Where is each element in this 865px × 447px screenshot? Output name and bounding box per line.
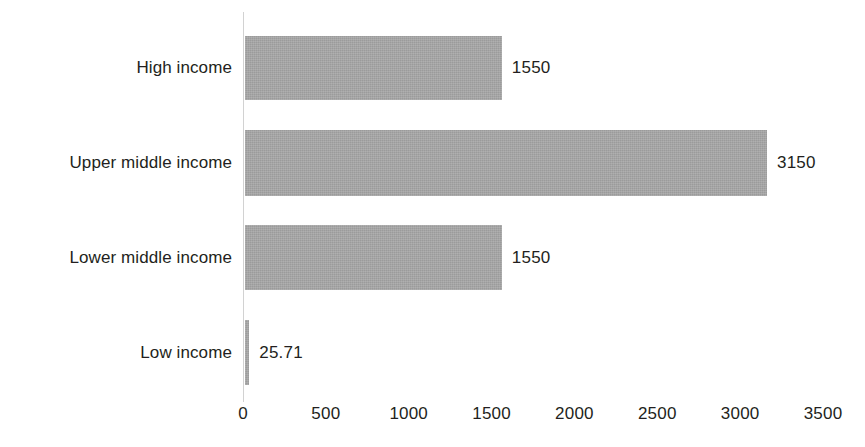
x-tick-label: 500 <box>311 404 340 424</box>
bar-upper-middle-income <box>245 130 767 196</box>
category-label-upper-middle-income: Upper middle income <box>0 153 232 173</box>
bar-lower-middle-income <box>245 225 502 290</box>
x-tick-label: 3000 <box>721 404 760 424</box>
bar-high-income <box>245 36 502 100</box>
category-label-high-income: High income <box>0 58 232 78</box>
bar-row: 3150 <box>243 130 823 196</box>
bar-row: 1550 <box>243 36 823 100</box>
x-tick-label: 1500 <box>472 404 511 424</box>
bar-row: 1550 <box>243 225 823 290</box>
category-axis-labels: High income Upper middle income Lower mi… <box>0 12 232 402</box>
x-tick-label: 2500 <box>638 404 677 424</box>
category-label-low-income: Low income <box>0 343 232 363</box>
bar-value-label-upper-middle-income: 3150 <box>777 153 816 173</box>
bar-value-label-high-income: 1550 <box>512 58 551 78</box>
bar-value-label-lower-middle-income: 1550 <box>512 248 551 268</box>
x-tick-label: 3500 <box>804 404 843 424</box>
value-axis-ticks: 0 500 1000 1500 2000 2500 3000 3500 <box>0 404 865 434</box>
category-label-lower-middle-income: Lower middle income <box>0 248 232 268</box>
bar-chart-figure: High income Upper middle income Lower mi… <box>0 0 865 447</box>
bar-row: 25.71 <box>243 320 823 385</box>
bar-value-label-low-income: 25.71 <box>259 343 303 363</box>
x-tick-label: 1000 <box>389 404 428 424</box>
x-tick-label: 0 <box>238 404 248 424</box>
x-tick-label: 2000 <box>555 404 594 424</box>
plot-area: 1550 3150 1550 25.71 <box>243 12 823 402</box>
bar-low-income <box>245 320 249 385</box>
